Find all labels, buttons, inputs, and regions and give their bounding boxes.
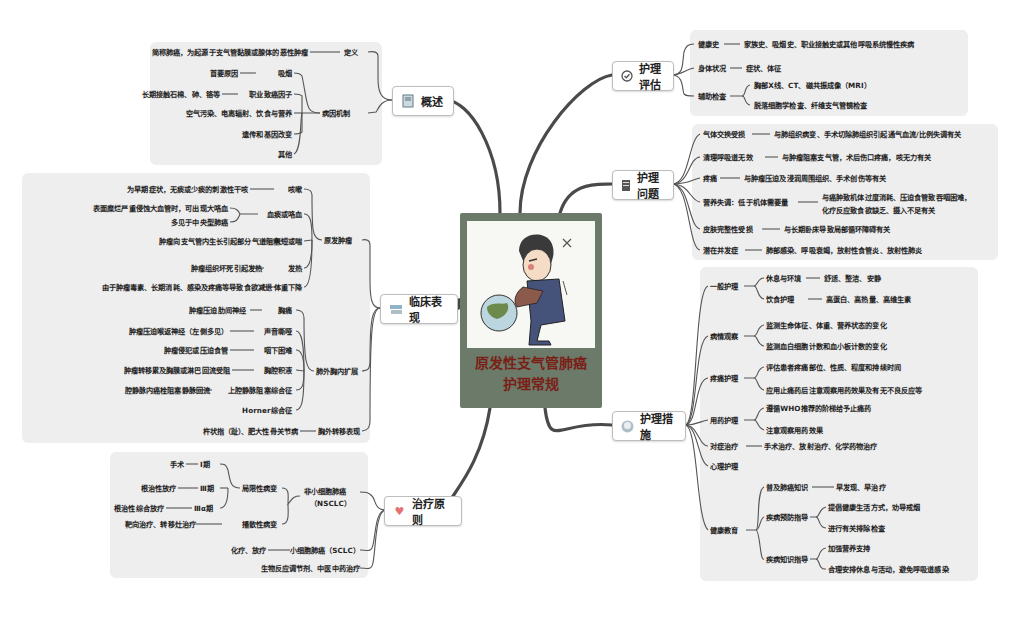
measure-sub-label: 疾病预防指导 [766,513,809,522]
problem-label: 气体交换受损 [703,130,746,139]
symptom-label: 发热 [288,264,302,273]
problems-panel [692,124,998,260]
measure-label: 用药护理 [710,416,738,425]
mind-map-canvas: 原发性支气管肺癌 护理常规 概述 临床表现 ♥ 治疗原则 护理评估 护理问题 护… [0,0,1032,618]
measure-detail: 高蛋白、高热量、高维生素 [826,295,911,304]
measure-detail: 评估患者疼痛部位、性质、程度和持续时间 [766,363,901,372]
branch-clinical[interactable]: 临床表现 [380,294,458,324]
problem-detail: 与肺组织病变、手术切除肺组织引起通气血流/比例失调有关 [774,130,961,139]
problem-label: 皮肤完整性受损 [703,225,753,234]
disseminated-label: 播散性病变 [242,520,278,529]
clinical-metastasis-detail: 杵状指（趾）、肥大性骨关节病 [203,427,298,436]
assessment-item-detail: 胸部X线、CT、磁共振成像（MRI） [754,81,871,90]
problem-detail: 与肿瘤阻塞支气管，术后伤口疼痛，咳无力有关 [782,153,931,162]
measure-label: 疼痛护理 [710,374,738,383]
measure-detail: 监测血白细胞计数和血小板计数的变化 [766,342,887,351]
local-detail: 肿瘤压迫喉返神经（左侧多见） [129,327,228,336]
symptom-detail: 由于肿瘤毒素、长期消耗、感染及疼痛等导致食欲减退 [102,283,272,292]
problem-detail: 化疗反应致食欲缺乏、摄入不足有关 [822,206,936,215]
branch-overview-label: 概述 [421,93,443,109]
local-label: 声音嘶哑 [264,327,292,336]
nsclc-label-abbr: （NSCLC） [310,499,351,508]
local-detail: 肿瘤侵犯或压迫食管 [164,346,228,355]
measure-detail: 遵循WHO推荐的阶梯给予止痛药 [766,404,872,413]
measure-sub-label: 休息与环境 [766,274,802,283]
nsclc-label: 非小细胞肺癌 [304,487,347,496]
problem-label: 疼痛 [703,174,717,183]
sclc-detail: 化疗、放疗 [231,546,267,555]
symptom-detail: 为早期症状，无痰或少痰的刺激性干咳 [127,185,248,194]
symptom-label: 血痰或咯血 [267,210,303,219]
overview-definition-label: 定义 [344,48,358,57]
measure-detail: 提倡健康生活方式，劝导戒烟 [828,503,920,512]
etiology-item-label: 遗传和基因改变 [242,130,292,139]
symptom-detail: 肿瘤向支气管内生长引起部分气道阻塞 [159,237,280,246]
measure-label: 心理护理 [710,462,738,471]
measure-label: 对症治疗 [710,442,738,451]
stage-treatment: 根治性综合放疗 [114,504,164,513]
symptom-label: 体重下降 [274,283,302,292]
assessment-item-label: 身体状况 [698,64,726,73]
measure-label: 病情观察 [710,332,738,341]
disseminated-detail: 靶向治疗、转移灶治疗 [125,520,196,529]
symptom-label: 咳嗽 [288,185,302,194]
branch-treatment[interactable]: ♥ 治疗原则 [384,496,462,526]
heart-icon: ♥ [393,504,406,518]
stage-label: Ⅲα期 [194,504,213,513]
symptom-detail: 多见于中央型肺癌 [171,218,228,227]
local-detail: 肿瘤压迫肋间神经 [189,306,246,315]
problem-label: 营养失调：低于机体需要量 [703,198,788,207]
localized-label: 局限性病变 [242,484,278,493]
local-label: 咽下困难 [264,346,292,355]
symptom-detail: 表面糜烂严重侵蚀大血管时，可出现大咯血 [93,204,228,213]
problem-label: 清理呼吸道无效 [703,153,753,162]
etiology-item-label: 空气污染、电离辐射、饮食与营养 [186,109,293,118]
branch-clinical-label: 临床表现 [409,293,449,325]
measure-detail: 手术治疗、放射治疗、化学药物治疗 [764,442,878,451]
branch-measures[interactable]: 护理措施 [612,411,686,441]
stage-label: Ⅰ期 [200,460,210,469]
sclc-label: 小细胞肺癌（SCLC） [290,546,360,555]
branch-problems-label: 护理问题 [637,169,665,201]
measure-detail: 进行有关排除检查 [828,524,885,533]
measure-label: 健康教育 [710,526,738,535]
treatment-other: 生物反应调节剂、中医中药治疗 [261,564,360,573]
local-label: 上腔静脉阻塞综合征 [228,386,292,395]
central-title-line-1: 原发性支气管肺癌 [460,353,602,374]
assessment-item-label: 辅助检查 [698,92,726,101]
branch-problems[interactable]: 护理问题 [612,170,674,200]
etiology-item-detail: 首要原因 [210,69,238,78]
branch-assessment-label: 护理评估 [639,60,665,92]
central-title-line-2: 护理常规 [460,374,602,395]
branch-assessment[interactable]: 护理评估 [612,61,674,91]
assessment-item-label: 健康史 [698,40,719,49]
local-detail: 肿瘤转移累及胸膜或淋巴回流受阻 [124,366,231,375]
clinical-local-label: 肺外胸内扩展 [316,367,359,376]
etiology-item-label: 吸烟 [278,69,292,78]
branch-measures-label: 护理措施 [640,410,677,442]
etiology-item-label: 其他 [278,150,292,159]
measure-detail: 应用止痛药后注意观察用药效果及有无不良反应等 [766,386,922,395]
branch-treatment-label: 治疗原则 [412,495,453,527]
clinical-primary-label: 原发肿瘤 [324,236,352,245]
measure-sub-label: 普及肺癌知识 [766,483,809,492]
problem-detail: 与癌肿致机体过度消耗、压迫食管致吞咽困难， [822,193,971,202]
stage-label: Ⅲ期 [200,484,214,493]
measure-label: 一般护理 [710,282,738,291]
stage-treatment: 手术 [170,460,184,469]
central-topic[interactable]: 原发性支气管肺癌 护理常规 [460,213,602,408]
books-icon [389,302,403,316]
patient-illustration [467,221,595,348]
overview-etiology-label: 病因机制 [322,109,350,118]
assessment-item-detail: 家族史、吸烟史、职业接触史或其他呼吸系统慢性疾病 [744,40,914,49]
assessment-item-detail: 脱落细胞学检查、纤维支气管镜检查 [754,101,868,110]
branch-overview[interactable]: 概述 [392,86,454,116]
measure-sub-label: 疾病知识指导 [766,555,809,564]
clinical-metastasis-label: 胸外转移表现 [318,427,361,436]
problem-detail: 与肿瘤压迫及浸润周围组织、手术创伤等有关 [744,174,886,183]
check-circle-icon [621,69,633,83]
local-label: Horner综合征 [242,406,292,415]
measures-panel [700,267,978,581]
symptom-detail: 肿瘤组织坏死引起发热 [191,264,262,273]
notebook-icon [621,178,631,192]
